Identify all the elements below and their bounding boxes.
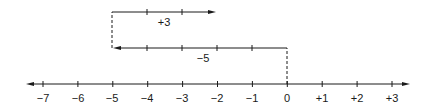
axis-labels: −7 −6 −5 −4 −3 −2 −1 0 +1 +2 +3 (37, 92, 399, 104)
tick-label: −1 (246, 92, 259, 104)
tick-label: −7 (37, 92, 50, 104)
move-minus-5: −5 (113, 45, 287, 64)
tick-label: +3 (386, 92, 399, 104)
tick-label: +1 (316, 92, 329, 104)
move-label: −5 (197, 52, 210, 64)
axis-right-arrow-icon (402, 82, 410, 86)
move-label: +3 (158, 16, 171, 28)
main-axis: −7 −6 −5 −4 −3 −2 −1 0 +1 +2 +3 (26, 81, 410, 104)
number-line-diagram: −7 −6 −5 −4 −3 −2 −1 0 +1 +2 +3 −5 +3 (0, 0, 431, 111)
move-plus-3: +3 (112, 9, 216, 28)
tick-label: −2 (211, 92, 224, 104)
tick-label: −3 (176, 92, 189, 104)
tick-label: −5 (106, 92, 119, 104)
axis-left-arrow-icon (26, 82, 34, 86)
tick-label: −4 (141, 92, 154, 104)
left-arrow-icon (113, 46, 121, 50)
tick-label: 0 (284, 92, 290, 104)
tick-label: −6 (72, 92, 85, 104)
right-arrow-icon (208, 10, 216, 14)
tick-label: +2 (351, 92, 364, 104)
